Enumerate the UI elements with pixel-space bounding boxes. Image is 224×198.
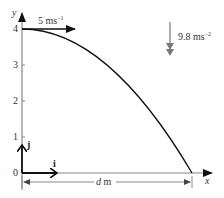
y-tick-label-2: 2 — [13, 95, 18, 106]
y-tick-label-0: 0 — [13, 167, 18, 178]
y-axis-label: y — [11, 7, 17, 18]
trajectory-curve — [22, 29, 192, 173]
unit-vector-i-label: i — [53, 158, 56, 169]
initial-velocity-label: 5 ms−1 — [38, 15, 64, 26]
x-axis-label: x — [204, 175, 210, 186]
unit-vector-j-label: j — [26, 139, 30, 150]
distance-label: d m — [96, 176, 112, 187]
gravity-label: 9.8 ms−2 — [178, 31, 211, 42]
y-tick-label-1: 1 — [13, 131, 18, 142]
gravity-arrow-icon — [166, 22, 174, 56]
projectile-diagram: y x 0 1 2 3 4 5 ms−1 9.8 ms−2 j i d m — [0, 0, 224, 198]
y-tick-label-4: 4 — [13, 23, 18, 34]
y-tick-label-3: 3 — [13, 59, 18, 70]
